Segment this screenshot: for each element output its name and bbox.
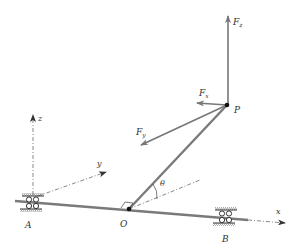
force-Fx-label: Fx — [198, 88, 209, 99]
shaft-crank-diagram: z y x θ Fz Fx Fy P O — [0, 0, 301, 250]
axis-y: y — [38, 159, 106, 196]
axis-z-label: z — [37, 114, 43, 123]
bearing-A: A — [20, 193, 44, 230]
crank-arm-OP — [129, 105, 227, 209]
bearing-A-label: A — [24, 220, 32, 230]
shaft-AB — [15, 201, 248, 220]
angle-theta-label: θ — [160, 179, 165, 188]
point-P-label: P — [233, 105, 241, 115]
axis-z: z — [33, 114, 43, 195]
force-Fz: Fz — [228, 16, 243, 105]
point-O — [127, 207, 132, 212]
axis-x-label: x — [276, 207, 281, 216]
force-Fx: Fx — [197, 88, 227, 105]
point-P — [225, 103, 230, 108]
angle-theta-arc — [153, 184, 157, 199]
axis-y-label: y — [96, 159, 102, 168]
force-Fy-label: Fy — [135, 127, 146, 139]
bearing-B-label: B — [221, 234, 229, 244]
bearing-B: B — [213, 207, 237, 244]
point-O-label: O — [120, 219, 128, 229]
force-Fy: Fy — [135, 105, 227, 145]
force-Fz-label: Fz — [232, 17, 243, 28]
axis-x: x — [248, 207, 285, 223]
